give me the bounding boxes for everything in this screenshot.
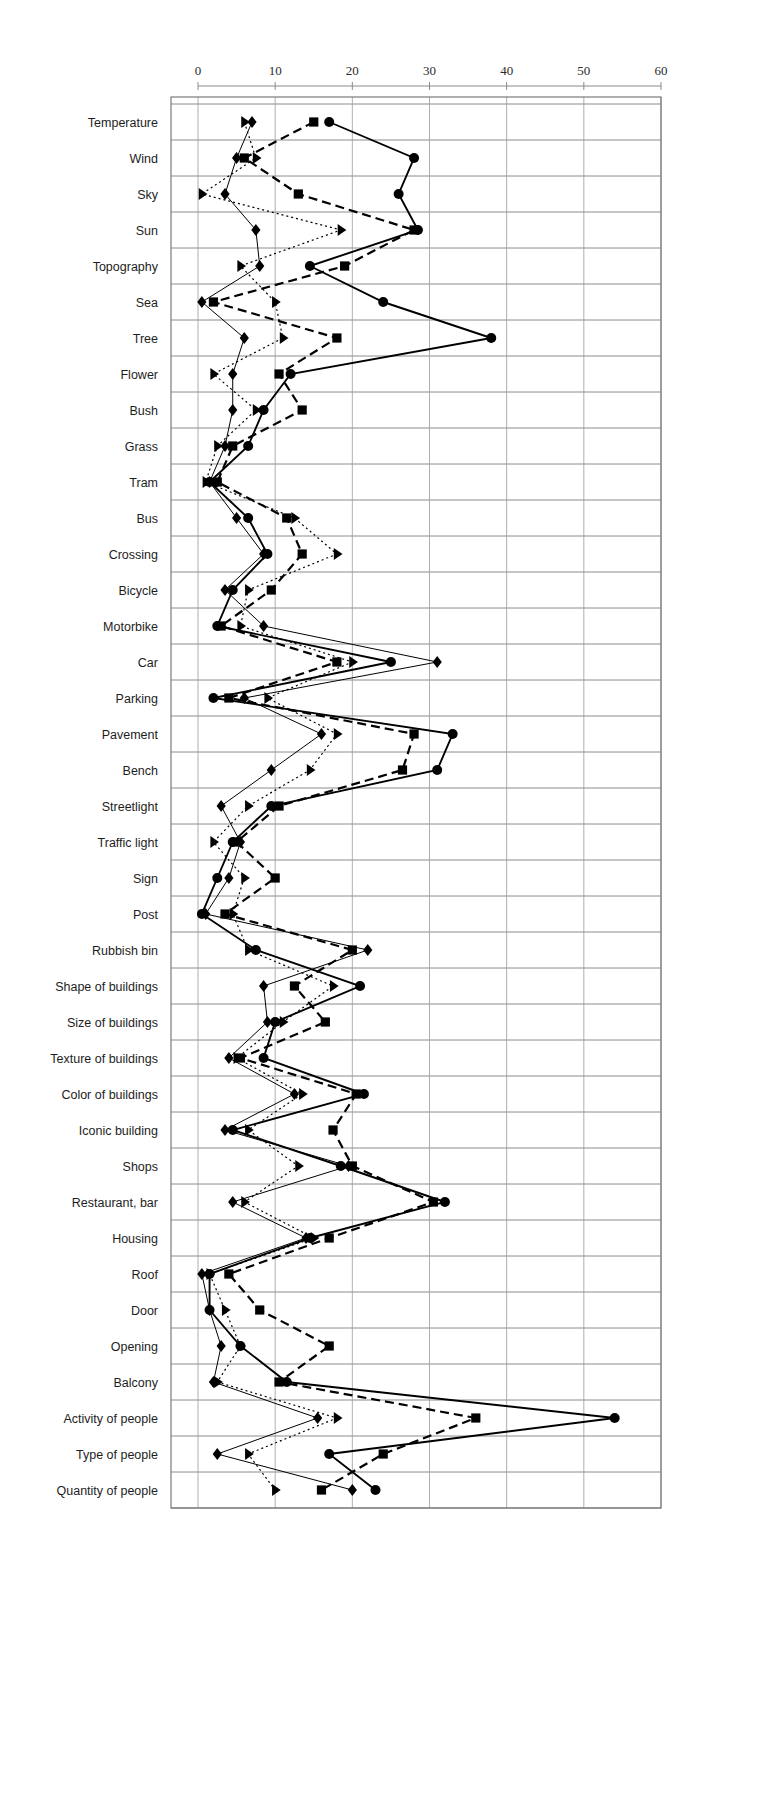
data-point-square bbox=[325, 1341, 334, 1350]
data-point-square bbox=[398, 765, 407, 774]
category-label: Texture of buildings bbox=[50, 1052, 158, 1066]
category-label: Type of people bbox=[76, 1448, 158, 1462]
category-label: Door bbox=[131, 1304, 158, 1318]
category-label: Temperature bbox=[88, 116, 158, 130]
category-label: Opening bbox=[111, 1340, 158, 1354]
data-point-circle bbox=[286, 369, 296, 379]
data-point-triangle bbox=[299, 1088, 308, 1100]
data-point-circle bbox=[355, 981, 365, 991]
data-point-diamond bbox=[255, 260, 264, 272]
data-point-square bbox=[290, 981, 299, 990]
category-label: Sea bbox=[136, 296, 158, 310]
category-label: Pavement bbox=[102, 728, 159, 742]
x-axis-tick-label: 30 bbox=[423, 63, 436, 78]
data-point-square bbox=[409, 225, 418, 234]
data-point-circle bbox=[212, 873, 222, 883]
data-point-circle bbox=[409, 153, 419, 163]
data-point-square bbox=[255, 1305, 264, 1314]
data-point-diamond bbox=[220, 1124, 229, 1136]
data-point-triangle bbox=[280, 332, 289, 344]
series-line-diamond bbox=[202, 122, 437, 1490]
category-label: Sky bbox=[137, 188, 159, 202]
category-label: Shape of buildings bbox=[55, 980, 158, 994]
category-label: Balcony bbox=[114, 1376, 159, 1390]
data-point-square bbox=[271, 873, 280, 882]
data-point-square bbox=[224, 693, 233, 702]
category-label: Parking bbox=[116, 692, 158, 706]
category-label: Color of buildings bbox=[61, 1088, 158, 1102]
data-point-triangle bbox=[253, 404, 262, 416]
data-point-square bbox=[274, 1377, 283, 1386]
data-point-triangle bbox=[338, 224, 347, 236]
category-label: Grass bbox=[125, 440, 158, 454]
data-point-diamond bbox=[263, 1016, 272, 1028]
data-point-circle bbox=[610, 1413, 620, 1423]
category-label: Tram bbox=[129, 476, 158, 490]
data-point-triangle bbox=[349, 656, 358, 668]
category-label: Flower bbox=[120, 368, 158, 382]
data-point-square bbox=[352, 1089, 361, 1098]
category-label: Bus bbox=[136, 512, 158, 526]
data-point-square bbox=[209, 297, 218, 306]
data-point-triangle bbox=[241, 872, 250, 884]
data-point-triangle bbox=[245, 1448, 254, 1460]
data-point-circle bbox=[324, 117, 334, 127]
data-point-square bbox=[267, 585, 276, 594]
data-point-diamond bbox=[267, 764, 276, 776]
data-point-diamond bbox=[290, 1088, 299, 1100]
data-point-circle bbox=[394, 189, 404, 199]
data-point-triangle bbox=[222, 1304, 231, 1316]
data-point-square bbox=[224, 1269, 233, 1278]
data-point-diamond bbox=[197, 296, 206, 308]
data-point-triangle bbox=[272, 1484, 281, 1496]
data-point-square bbox=[332, 657, 341, 666]
data-point-square bbox=[321, 1017, 330, 1026]
data-point-triangle bbox=[237, 260, 246, 272]
data-point-square bbox=[328, 1125, 337, 1134]
data-point-circle bbox=[370, 1485, 380, 1495]
data-point-square bbox=[409, 729, 418, 738]
data-point-circle bbox=[243, 513, 253, 523]
data-point-diamond bbox=[228, 368, 237, 380]
data-point-diamond bbox=[348, 1484, 357, 1496]
marker-layer bbox=[197, 116, 620, 1496]
data-point-diamond bbox=[217, 800, 226, 812]
category-label: Housing bbox=[112, 1232, 158, 1246]
x-axis-tick-label: 0 bbox=[195, 63, 202, 78]
category-label: Streetlight bbox=[102, 800, 159, 814]
x-axis-tick-label: 10 bbox=[269, 63, 282, 78]
data-point-square bbox=[298, 405, 307, 414]
category-label: Restaurant, bar bbox=[72, 1196, 158, 1210]
data-point-square bbox=[471, 1413, 480, 1422]
data-point-triangle bbox=[245, 800, 254, 812]
axis-layer: 0102030405060 bbox=[195, 63, 668, 90]
category-label: Activity of people bbox=[64, 1412, 159, 1426]
horizontal-line-chart: 0102030405060 TemperatureWindSkySunTopog… bbox=[0, 0, 781, 1799]
data-point-square bbox=[317, 1485, 326, 1494]
category-label: Bench bbox=[123, 764, 158, 778]
data-point-square bbox=[332, 333, 341, 342]
category-label: Crossing bbox=[109, 548, 158, 562]
category-labels: TemperatureWindSkySunTopographySeaTreeFl… bbox=[50, 116, 158, 1498]
category-label: Sign bbox=[133, 872, 158, 886]
x-axis-tick-label: 20 bbox=[346, 63, 359, 78]
data-point-diamond bbox=[259, 620, 268, 632]
data-point-square bbox=[379, 1449, 388, 1458]
data-point-square bbox=[325, 1233, 334, 1242]
category-label: Size of buildings bbox=[67, 1016, 158, 1030]
data-point-diamond bbox=[217, 1340, 226, 1352]
data-point-diamond bbox=[363, 944, 372, 956]
category-label: Bush bbox=[130, 404, 159, 418]
data-point-diamond bbox=[313, 1412, 322, 1424]
category-label: Shops bbox=[123, 1160, 158, 1174]
data-point-circle bbox=[440, 1197, 450, 1207]
data-point-triangle bbox=[307, 764, 316, 776]
grid-layer bbox=[171, 97, 661, 1508]
data-point-circle bbox=[324, 1449, 334, 1459]
data-point-triangle bbox=[210, 368, 219, 380]
data-point-circle bbox=[243, 441, 253, 451]
data-point-square bbox=[298, 549, 307, 558]
data-point-diamond bbox=[317, 728, 326, 740]
data-point-circle bbox=[448, 729, 458, 739]
data-point-square bbox=[274, 369, 283, 378]
